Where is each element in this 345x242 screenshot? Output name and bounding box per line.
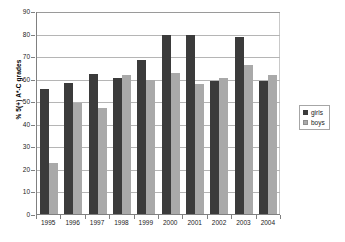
y-tick-mark <box>31 35 35 36</box>
bar-girls <box>89 74 98 214</box>
bar-group <box>86 12 110 214</box>
bar-group <box>110 12 134 214</box>
legend-label-boys: boys <box>311 119 325 126</box>
x-tick-label: 2004 <box>256 219 280 233</box>
legend-swatch-girls-icon <box>303 110 308 115</box>
y-tick-mark <box>31 147 35 148</box>
bar-boys <box>219 78 228 214</box>
bar-boys <box>73 103 82 214</box>
y-tick-label: 0 <box>26 212 30 219</box>
y-tick-label: 20 <box>23 167 30 174</box>
x-tick-mark <box>280 215 281 219</box>
y-tick-label: 80 <box>23 31 30 38</box>
bar-group <box>158 12 182 214</box>
bar-girls <box>210 81 219 214</box>
bar-group <box>37 12 61 214</box>
bar-girls <box>186 35 195 214</box>
bar-girls <box>162 35 171 214</box>
bar-girls <box>137 60 146 215</box>
legend-swatch-boys-icon <box>303 120 308 125</box>
bar-groups <box>37 12 280 214</box>
bar-boys <box>146 80 155 214</box>
x-axis-labels: 1995199619971998199920002001200220032004 <box>36 219 280 233</box>
bar-girls <box>259 81 268 214</box>
bar-girls <box>64 83 73 214</box>
bar-boys <box>98 108 107 214</box>
x-tick-label: 1999 <box>134 219 158 233</box>
y-tick-mark <box>31 215 35 216</box>
bar-boys <box>122 75 131 214</box>
y-tick-mark <box>31 80 35 81</box>
y-tick-label: 10 <box>23 189 30 196</box>
y-tick-mark <box>31 125 35 126</box>
bar-group <box>183 12 207 214</box>
chart-legend: girls boys <box>299 105 330 130</box>
x-tick-label: 1997 <box>85 219 109 233</box>
y-axis-ticks: 0102030405060708090 <box>0 12 34 215</box>
x-tick-label: 2001 <box>182 219 206 233</box>
x-tick-label: 2000 <box>158 219 182 233</box>
y-tick-label: 70 <box>23 54 30 61</box>
y-tick-label: 40 <box>23 122 30 129</box>
bar-group <box>61 12 85 214</box>
x-tick-label: 2003 <box>231 219 255 233</box>
plot-area <box>36 12 280 215</box>
y-tick-label: 30 <box>23 144 30 151</box>
bar-boys <box>268 75 277 214</box>
y-tick-label: 90 <box>23 9 30 16</box>
bar-girls <box>40 89 49 214</box>
legend-label-girls: girls <box>311 109 323 116</box>
x-tick-label: 1995 <box>36 219 60 233</box>
bar-girls <box>235 37 244 214</box>
bar-group <box>256 12 280 214</box>
y-tick-mark <box>31 57 35 58</box>
y-tick-label: 50 <box>23 99 30 106</box>
bar-boys <box>171 73 180 214</box>
y-tick-mark <box>31 170 35 171</box>
x-tick-label: 2002 <box>207 219 231 233</box>
y-tick-label: 60 <box>23 76 30 83</box>
bar-group <box>134 12 158 214</box>
y-tick-mark <box>31 12 35 13</box>
bar-boys <box>195 84 204 214</box>
bar-group <box>231 12 255 214</box>
bar-boys <box>49 163 58 214</box>
y-tick-mark <box>31 102 35 103</box>
legend-item-boys: boys <box>303 119 325 126</box>
bar-group <box>207 12 231 214</box>
x-tick-label: 1998 <box>109 219 133 233</box>
bar-girls <box>113 78 122 214</box>
y-tick-mark <box>31 192 35 193</box>
bar-boys <box>244 65 253 214</box>
bar-chart: % 5(+) A*-C grades 0102030405060708090 1… <box>0 0 345 242</box>
legend-item-girls: girls <box>303 109 325 116</box>
x-tick-label: 1996 <box>60 219 84 233</box>
